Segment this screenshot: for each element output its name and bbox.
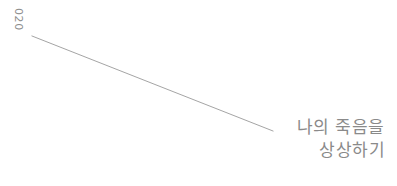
chapter-title-line-1: 나의 죽음을	[0, 116, 389, 139]
chapter-number: 020	[10, 8, 26, 31]
chapter-title-block: 나의 죽음을 상상하기	[0, 116, 397, 162]
page-canvas: 020 나의 죽음을 상상하기	[0, 0, 397, 186]
chapter-title-line-2: 상상하기	[0, 139, 389, 162]
